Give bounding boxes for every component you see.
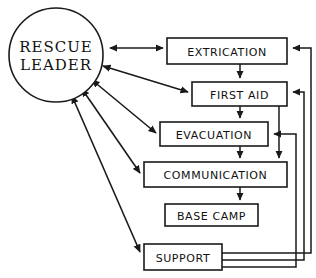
node-first-aid[interactable]: FIRST AID	[192, 82, 287, 106]
support-label: SUPPORT	[156, 252, 211, 265]
node-rescue-leader[interactable]: RESCUE LEADER	[9, 8, 103, 102]
edge-support-evacuation	[222, 134, 296, 267]
edge-leader-support	[72, 96, 140, 252]
node-communication[interactable]: COMMUNICATION	[144, 162, 287, 187]
edge-leader-first-aid	[103, 66, 188, 92]
extrication-label: EXTRICATION	[187, 46, 267, 59]
feedback-edge-group	[222, 48, 311, 267]
rescue-leader-label-line2: LEADER	[20, 56, 92, 74]
node-extrication[interactable]: EXTRICATION	[167, 38, 287, 64]
node-base-camp[interactable]: BASE CAMP	[165, 204, 258, 226]
edge-leader-communication	[82, 89, 140, 173]
communication-label: COMMUNICATION	[164, 169, 268, 182]
rescue-leader-flow-diagram: RESCUE LEADER EXTRICATION FIRST AID EVAC…	[0, 0, 316, 278]
evacuation-label: EVACUATION	[176, 129, 252, 142]
node-support[interactable]: SUPPORT	[144, 244, 222, 270]
base-camp-label: BASE CAMP	[177, 210, 246, 223]
first-aid-label: FIRST AID	[210, 89, 269, 102]
node-evacuation[interactable]: EVACUATION	[160, 122, 268, 146]
edge-leader-evacuation	[92, 80, 156, 133]
rescue-leader-label-line1: RESCUE	[19, 38, 93, 56]
